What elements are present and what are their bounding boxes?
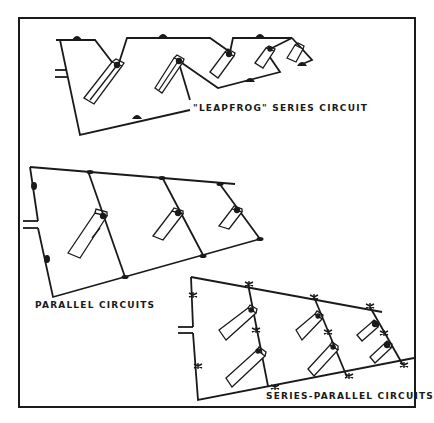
circuit-diagram <box>0 0 434 423</box>
bulb <box>68 209 107 258</box>
bulb <box>287 43 304 62</box>
series-parallel-circuit <box>178 277 414 400</box>
bulb <box>226 347 266 387</box>
bulb <box>308 342 338 376</box>
bulb <box>84 59 124 104</box>
leapfrog-series-circuit <box>55 38 312 135</box>
bulb <box>153 208 183 240</box>
bulb <box>155 55 184 93</box>
bulb <box>296 311 323 340</box>
bulb <box>370 341 392 363</box>
bulb <box>357 320 379 341</box>
leapfrog-series-circuit-label: "LEAPFROG" SERIES CIRCUIT <box>193 103 368 113</box>
parallel-circuits-label: PARALLEL CIRCUITS <box>35 300 155 310</box>
parallel-circuit <box>23 167 260 297</box>
bulb <box>219 305 257 340</box>
series-parallel-circuits-label: SERIES-PARALLEL CIRCUITS <box>266 391 434 401</box>
bulb <box>219 206 242 229</box>
bulb <box>210 49 235 78</box>
bulb <box>255 46 275 68</box>
